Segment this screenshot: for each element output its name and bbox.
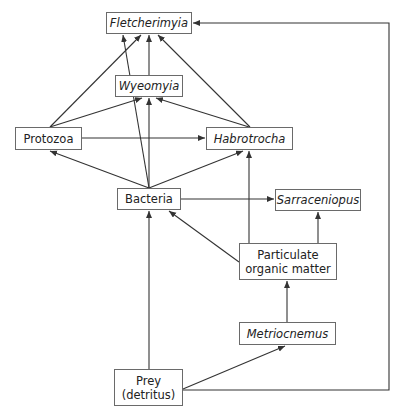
node-label: Metriocnemus — [247, 327, 329, 341]
node-label: Habrotrocha — [214, 132, 286, 146]
node-label: Wyeomyia — [119, 79, 180, 93]
node-metriocnemus: Metriocnemus — [239, 322, 336, 345]
node-label: Fletcherimyia — [110, 16, 188, 30]
node-particulate-organic-matter: Particulate organic matter — [239, 243, 337, 280]
node-wyeomyia: Wyeomyia — [115, 75, 183, 97]
edge-bacteria-to-fletcherimyia — [123, 35, 149, 188]
node-label: Protozoa — [24, 132, 74, 146]
edge-pom-to-bacteria — [169, 211, 239, 262]
node-label-block: Prey (detritus) — [122, 374, 176, 402]
node-label: Sarraceniopus — [277, 193, 359, 207]
node-label-line2: (detritus) — [122, 388, 176, 402]
node-fletcherimyia: Fletcherimyia — [106, 12, 192, 34]
edge-bacteria-to-protozoa — [50, 151, 149, 188]
node-label-block: Particulate organic matter — [245, 248, 330, 276]
node-label-line1: Prey — [122, 374, 176, 388]
edge-bacteria-to-habrotrocha — [149, 151, 243, 188]
node-prey-detritus: Prey (detritus) — [114, 369, 183, 406]
node-habrotrocha: Habrotrocha — [206, 127, 293, 150]
node-bacteria: Bacteria — [117, 188, 181, 210]
node-protozoa: Protozoa — [15, 127, 82, 150]
edge-prey-to-metriocnemus — [183, 346, 285, 389]
node-label: Bacteria — [125, 192, 173, 206]
node-label-line2: organic matter — [245, 262, 330, 276]
node-sarraceniopus: Sarraceniopus — [275, 189, 361, 211]
node-label-line1: Particulate — [245, 248, 330, 262]
